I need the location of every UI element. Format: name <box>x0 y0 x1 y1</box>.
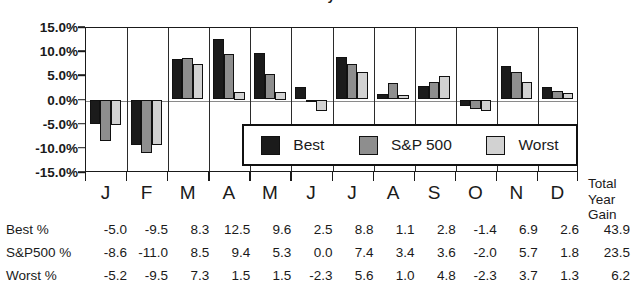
month-label-9: O <box>454 182 496 204</box>
month-label-6: J <box>331 182 373 204</box>
month-label-0: J <box>85 182 127 204</box>
x-axis-month-labels: JFMAMJJASOND <box>85 182 578 206</box>
table-row: S&P500 %-8.6-11.08.59.45.30.07.43.43.6-2… <box>0 242 634 264</box>
total-header-line-0: Total <box>588 176 634 192</box>
x-axis-tick <box>126 172 127 181</box>
legend-swatch-icon-worst <box>486 136 505 155</box>
total-header-line-1: Year <box>588 192 634 208</box>
table-cell: 6.9 <box>494 219 538 241</box>
y-axis-tick <box>78 147 85 149</box>
table-total-cell: 23.5 <box>578 242 630 264</box>
legend-label: Worst <box>518 136 558 154</box>
table-cell: 0.0 <box>288 242 332 264</box>
table-cell: 1.5 <box>247 265 291 287</box>
y-axis-tick <box>78 123 85 125</box>
month-label-7: A <box>372 182 414 204</box>
table-row-label: Worst % <box>6 265 57 287</box>
month-label-4: M <box>249 182 291 204</box>
table-cell: 1.5 <box>206 265 250 287</box>
table-cell: 3.4 <box>371 242 415 264</box>
y-axis-label: -5.0% <box>0 116 78 131</box>
table-cell: 3.6 <box>412 242 456 264</box>
zero-baseline <box>86 101 577 102</box>
table-cell: -5.2 <box>83 265 127 287</box>
table-cell: -8.6 <box>83 242 127 264</box>
table-cell: -2.3 <box>453 265 497 287</box>
table-cell: 1.0 <box>371 265 415 287</box>
x-axis-tick <box>249 172 250 181</box>
y-axis-tick <box>78 26 85 28</box>
x-axis-tick <box>373 172 374 181</box>
x-axis-tick <box>577 172 578 181</box>
table-row-label: S&P500 % <box>6 242 71 264</box>
table-cell: 9.4 <box>206 242 250 264</box>
x-axis-tick <box>167 172 168 181</box>
table-cell: 1.8 <box>535 242 579 264</box>
grid-line-vertical <box>209 28 210 171</box>
table-row-label: Best % <box>6 219 49 241</box>
y-axis-tick <box>78 99 85 101</box>
table-cell: 5.7 <box>494 242 538 264</box>
x-axis-ticks <box>85 172 578 181</box>
month-label-1: F <box>126 182 168 204</box>
month-label-10: N <box>495 182 537 204</box>
table-cell: 8.8 <box>330 219 374 241</box>
grid-line-vertical <box>127 28 128 171</box>
x-axis-tick <box>537 172 538 181</box>
legend-item-snp[interactable]: S&P 500 <box>359 136 452 155</box>
legend-swatch-icon-best <box>261 136 280 155</box>
table-row: Best %-5.0-9.58.312.59.62.58.81.12.8-1.4… <box>0 219 634 241</box>
y-axis-label: 0.0% <box>0 92 78 107</box>
table-cell: -11.0 <box>124 242 168 264</box>
table-cell: -9.5 <box>124 219 168 241</box>
month-label-3: A <box>208 182 250 204</box>
x-axis-tick <box>332 172 333 181</box>
total-year-gain-header: TotalYearGain <box>588 176 634 223</box>
y-axis-label: 10.0% <box>0 44 78 59</box>
table-cell: 2.5 <box>288 219 332 241</box>
table-total-cell: 43.9 <box>578 219 630 241</box>
legend-label: Best <box>293 136 324 154</box>
data-table: Best %-5.0-9.58.312.59.62.58.81.12.8-1.4… <box>0 219 634 289</box>
month-label-11: D <box>536 182 578 204</box>
month-label-2: M <box>167 182 209 204</box>
legend-swatch-icon-snp <box>359 136 378 155</box>
table-cell: -9.5 <box>124 265 168 287</box>
table-total-cell: 6.2 <box>578 265 630 287</box>
table-cell: 4.8 <box>412 265 456 287</box>
chart-legend: BestS&P 500Worst <box>242 124 578 166</box>
legend-item-best[interactable]: Best <box>261 136 324 155</box>
y-axis-tick <box>78 50 85 52</box>
y-axis-tick <box>78 171 85 173</box>
x-axis-tick <box>290 172 291 181</box>
table-cell: -5.0 <box>83 219 127 241</box>
y-axis-label: -10.0% <box>0 140 78 155</box>
y-axis-tick <box>78 75 85 77</box>
legend-item-worst[interactable]: Worst <box>486 136 558 155</box>
table-cell: 5.3 <box>247 242 291 264</box>
table-cell: 1.3 <box>535 265 579 287</box>
table-cell: 1.1 <box>371 219 415 241</box>
x-axis-tick <box>85 172 86 181</box>
grid-line-vertical <box>168 28 169 171</box>
table-cell: 9.6 <box>247 219 291 241</box>
x-axis-tick <box>208 172 209 181</box>
month-label-8: S <box>413 182 455 204</box>
month-label-5: J <box>290 182 332 204</box>
x-axis-tick <box>455 172 456 181</box>
y-axis-label: 5.0% <box>0 68 78 83</box>
y-axis: 15.0%10.0%5.0%0.0%-5.0%-10.0%-15.0% <box>0 27 78 172</box>
table-cell: 8.3 <box>165 219 209 241</box>
table-cell: 8.5 <box>165 242 209 264</box>
table-cell: 12.5 <box>206 219 250 241</box>
table-cell: -2.3 <box>288 265 332 287</box>
legend-label: S&P 500 <box>391 136 452 154</box>
table-cell: 2.6 <box>535 219 579 241</box>
y-axis-label: -15.0% <box>0 165 78 180</box>
table-row: Worst %-5.2-9.57.31.51.5-2.35.61.04.8-2.… <box>0 265 634 287</box>
x-axis-tick <box>414 172 415 181</box>
x-axis-tick <box>496 172 497 181</box>
chart-title: Four-Year Presidential Election Cycle Be… <box>0 0 634 3</box>
table-cell: 3.7 <box>494 265 538 287</box>
table-cell: 2.8 <box>412 219 456 241</box>
